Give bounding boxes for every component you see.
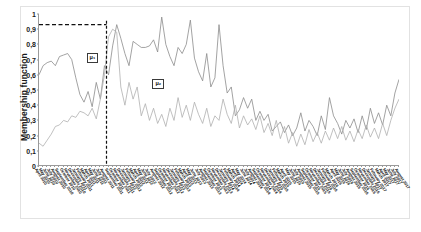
x-tick-mark [67,165,68,167]
x-tick-mark [79,165,80,167]
x-tick-mark [255,165,256,167]
chart-svg [39,14,399,166]
x-tick-mark [63,165,64,167]
x-tick-mark [251,165,252,167]
x-tick-mark [120,165,121,167]
x-tick-mark [337,165,338,167]
x-tick-mark [75,165,76,167]
x-tick-mark [341,165,342,167]
x-tick-mark [103,165,104,167]
y-tick-mark [37,105,39,106]
y-tick-mark [37,120,39,121]
y-tick-label: 0,3 [26,117,36,124]
x-tick-mark [181,165,182,167]
x-tick-mark [140,165,141,167]
y-tick-label: 0,5 [26,87,36,94]
y-tick-label: 1 [32,11,36,18]
x-tick-mark [124,165,125,167]
x-tick-mark [312,165,313,167]
x-tick-mark [218,165,219,167]
y-tick-mark [37,29,39,30]
y-tick-label: 0,2 [26,132,36,139]
x-tick-mark [95,165,96,167]
y-tick-label: 0,6 [26,71,36,78]
x-tick-mark [157,165,158,167]
y-axis-title: Membership function [19,32,29,162]
data-line-2 [39,29,399,146]
y-tick-label: 0,9 [26,26,36,33]
x-tick-mark [398,165,399,167]
x-tick-mark [42,165,43,167]
x-tick-mark [185,165,186,167]
x-tick-mark [308,165,309,167]
y-tick-label: 0,8 [26,41,36,48]
x-tick-mark [132,165,133,167]
x-tick-mark [210,165,211,167]
x-tick-mark [304,165,305,167]
figure-container: Membership function 00,10,20,30,40,50,60… [0,0,421,232]
x-tick-mark [222,165,223,167]
x-tick-mark [365,165,366,167]
x-tick-mark [271,165,272,167]
plot-area: 00,10,20,30,40,50,60,70,80,91μ₁μ₂ [38,14,398,166]
x-tick-mark [349,165,350,167]
y-tick-mark [37,150,39,151]
x-tick-mark [296,165,297,167]
x-tick-mark [214,165,215,167]
x-tick-mark [136,165,137,167]
x-tick-mark [373,165,374,167]
x-tick-mark [267,165,268,167]
x-tick-mark [279,165,280,167]
x-tick-mark [234,165,235,167]
x-tick-mark [238,165,239,167]
x-tick-mark [153,165,154,167]
y-tick-label: 0,4 [26,102,36,109]
x-tick-mark [378,165,379,167]
x-tick-mark [177,165,178,167]
x-tick-mark [50,165,51,167]
x-tick-mark [243,165,244,167]
x-tick-mark [198,165,199,167]
x-tick-mark [58,165,59,167]
x-tick-mark [108,165,109,167]
x-tick-mark [288,165,289,167]
x-tick-mark [263,165,264,167]
x-tick-mark [193,165,194,167]
x-tick-mark [324,165,325,167]
x-tick-mark [144,165,145,167]
x-tick-mark [275,165,276,167]
x-tick-mark [128,165,129,167]
x-tick-mark [161,165,162,167]
annotation-mu-2: μ₂ [152,79,164,89]
x-tick-mark [369,165,370,167]
x-tick-mark [148,165,149,167]
x-axis-labels: April 2010May 2010June 2010July 2010Augu… [38,167,398,225]
x-tick-mark [259,165,260,167]
y-tick-mark [37,44,39,45]
x-tick-mark [353,165,354,167]
x-tick-mark [247,165,248,167]
x-tick-mark [87,165,88,167]
x-tick-mark [226,165,227,167]
x-tick-mark [169,165,170,167]
x-tick-mark [230,165,231,167]
x-tick-mark [83,165,84,167]
x-tick-mark [112,165,113,167]
x-tick-mark [316,165,317,167]
x-tick-mark [292,165,293,167]
x-tick-mark [328,165,329,167]
x-tick-mark [165,165,166,167]
x-tick-mark [189,165,190,167]
x-tick-mark [394,165,395,167]
x-tick-mark [99,165,100,167]
x-tick-mark [54,165,55,167]
x-tick-mark [46,165,47,167]
x-tick-mark [386,165,387,167]
data-line-1 [39,17,399,136]
annotation-mu-1: μ₁ [87,53,99,63]
x-tick-mark [71,165,72,167]
y-tick-mark [37,59,39,60]
x-tick-mark [320,165,321,167]
x-tick-mark [345,165,346,167]
y-tick-mark [37,14,39,15]
